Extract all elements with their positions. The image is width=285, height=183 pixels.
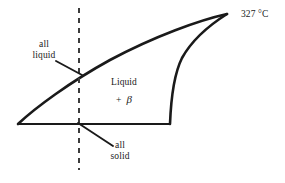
plus-symbol: +	[116, 95, 121, 105]
all-solid-label-line1: all	[115, 140, 125, 150]
all-liquid-label-line1: all	[39, 39, 49, 49]
all-solid-label-line2: solid	[111, 151, 130, 161]
solidus-path	[170, 14, 227, 124]
region-label-line1: Liquid	[111, 77, 137, 87]
all-liquid-label: allliquid	[24, 39, 64, 60]
phase-diagram-figure: allliquid allsolid Liquid+ β 327 °C	[0, 0, 285, 183]
all-liquid-label-line2: liquid	[33, 50, 56, 60]
beta-symbol: β	[126, 93, 132, 105]
temperature-label: 327 °C	[241, 9, 268, 20]
all-solid-label: allsolid	[100, 140, 140, 161]
liquidus-path	[18, 14, 227, 124]
region-label-line2: + β	[93, 94, 155, 106]
liquid-beta-region-label: Liquid+ β	[93, 77, 155, 105]
